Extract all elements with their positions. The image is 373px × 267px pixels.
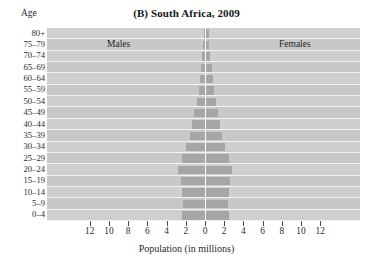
chart-title: (B) South Africa, 2009 bbox=[0, 7, 373, 19]
plot-area: MalesFemales bbox=[47, 28, 360, 221]
age-tick-45_49: 45–49 bbox=[1, 108, 45, 117]
x-axis-title: Population (in millions) bbox=[0, 243, 373, 254]
age-axis-tick-labels: 80+75–7970–7465–6960–6455–5950–5445–4940… bbox=[0, 28, 45, 221]
bar-male-25_29 bbox=[182, 154, 205, 162]
bar-female-35_39 bbox=[206, 132, 222, 140]
bar-female-65_69 bbox=[206, 64, 212, 72]
center-axis-line bbox=[205, 28, 206, 221]
age-tick-20_24: 20–24 bbox=[1, 165, 45, 174]
bar-female-60_64 bbox=[206, 75, 213, 83]
age-tick-40_44: 40–44 bbox=[1, 120, 45, 129]
x-tick-label: 12 bbox=[309, 226, 331, 236]
bar-female-5_9 bbox=[206, 200, 228, 208]
series-label-males: Males bbox=[107, 39, 130, 49]
age-tick-30_34: 30–34 bbox=[1, 142, 45, 151]
bar-male-50_54 bbox=[197, 98, 205, 106]
bar-female-75_79 bbox=[206, 41, 209, 49]
bar-male-15_19 bbox=[181, 177, 205, 185]
bar-male-10_14 bbox=[182, 188, 205, 196]
age-tick-80+: 80+ bbox=[1, 29, 45, 38]
bar-female-55_59 bbox=[206, 86, 214, 94]
age-tick-65_69: 65–69 bbox=[1, 63, 45, 72]
age-tick-55_59: 55–59 bbox=[1, 85, 45, 94]
age-tick-15_19: 15–19 bbox=[1, 176, 45, 185]
bar-female-0_4 bbox=[206, 211, 229, 219]
bar-male-20_24 bbox=[178, 166, 205, 174]
bar-female-80+ bbox=[206, 29, 209, 37]
age-tick-75_79: 75–79 bbox=[1, 40, 45, 49]
population-pyramid-figure: Age (B) South Africa, 2009 80+75–7970–74… bbox=[0, 0, 373, 267]
bar-male-40_44 bbox=[192, 120, 205, 128]
bar-female-45_49 bbox=[206, 109, 218, 117]
series-label-females: Females bbox=[279, 39, 311, 49]
age-tick-50_54: 50–54 bbox=[1, 97, 45, 106]
bar-male-5_9 bbox=[183, 200, 205, 208]
age-tick-60_64: 60–64 bbox=[1, 74, 45, 83]
bar-female-40_44 bbox=[206, 120, 220, 128]
age-tick-0_4: 0–4 bbox=[1, 210, 45, 219]
bar-female-25_29 bbox=[206, 154, 229, 162]
bar-male-45_49 bbox=[194, 109, 205, 117]
bar-male-0_4 bbox=[182, 211, 205, 219]
x-axis-tick-labels: 12108642024681012 bbox=[47, 226, 360, 240]
age-tick-5_9: 5–9 bbox=[1, 199, 45, 208]
bar-male-30_34 bbox=[186, 143, 205, 151]
bar-male-35_39 bbox=[190, 132, 205, 140]
age-tick-25_29: 25–29 bbox=[1, 154, 45, 163]
bar-female-20_24 bbox=[206, 166, 232, 174]
bar-female-70_74 bbox=[206, 52, 210, 60]
bar-female-30_34 bbox=[206, 143, 225, 151]
bar-female-50_54 bbox=[206, 98, 216, 106]
age-tick-35_39: 35–39 bbox=[1, 131, 45, 140]
age-tick-10_14: 10–14 bbox=[1, 188, 45, 197]
bar-female-10_14 bbox=[206, 188, 229, 196]
age-tick-70_74: 70–74 bbox=[1, 51, 45, 60]
bar-female-15_19 bbox=[206, 177, 230, 185]
